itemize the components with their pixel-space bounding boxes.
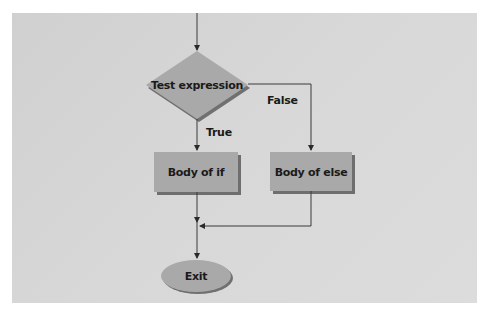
decision-label: Test expression: [151, 79, 243, 92]
else-merge-arrow: [200, 191, 311, 226]
if-body-label: Body of if: [168, 166, 225, 179]
else-body-node: Body of else: [270, 152, 355, 194]
flowchart: Test expression True False Body of if Bo…: [0, 0, 489, 313]
if-body-node: Body of if: [154, 152, 241, 195]
decision-node: Test expression: [146, 51, 250, 122]
true-label: True: [206, 126, 232, 139]
exit-node: Exit: [161, 260, 233, 294]
else-body-label: Body of else: [275, 166, 348, 179]
exit-label: Exit: [185, 270, 207, 283]
false-label: False: [267, 94, 298, 107]
